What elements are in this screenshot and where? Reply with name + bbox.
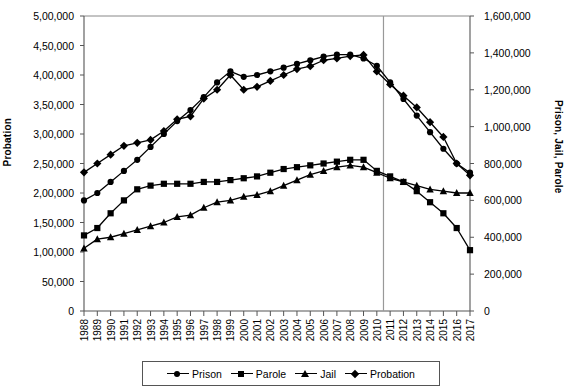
legend-item-jail[interactable]: Jail [295, 368, 336, 380]
x-tick-1999: 1999 [225, 319, 236, 341]
y-tick-right-7: 1,400,000 [484, 47, 531, 59]
y-tick-left-8: 4,00,000 [33, 69, 74, 81]
x-tick-2015: 2015 [438, 319, 449, 341]
y-tick-right-1: 200,000 [484, 268, 522, 280]
x-tick-2010: 2010 [372, 319, 383, 341]
x-tick-1991: 1991 [119, 319, 130, 341]
y-tick-right-5: 1,000,000 [484, 121, 531, 133]
y-tick-right-8: 1,600,000 [484, 10, 531, 22]
y-axis-left-ticks: 050,0001,00,0001,50,0002,00,0002,50,0003… [0, 0, 74, 391]
x-tick-2011: 2011 [385, 319, 396, 341]
y-tick-left-2: 1,00,000 [33, 246, 74, 258]
legend-label-jail: Jail [320, 368, 336, 380]
x-tick-1990: 1990 [106, 319, 117, 341]
x-tick-2004: 2004 [292, 319, 303, 341]
x-tick-2017: 2017 [465, 319, 476, 341]
x-tick-2006: 2006 [319, 319, 330, 341]
y-tick-left-3: 1,50,000 [33, 217, 74, 229]
y-tick-left-10: 5,00,000 [33, 10, 74, 22]
y-axis-right-label: Prison, Jail, Parole [548, 100, 564, 193]
legend-item-probation[interactable]: Probation [345, 368, 415, 380]
y-axis-left-label: Probation [2, 118, 18, 166]
x-tick-1994: 1994 [159, 319, 170, 341]
y-tick-left-0: 0 [68, 305, 74, 317]
x-tick-2000: 2000 [239, 319, 250, 341]
y-tick-left-6: 3,00,000 [33, 128, 74, 140]
legend-item-prison[interactable]: Prison [167, 368, 222, 380]
y-tick-left-7: 3,50,000 [33, 99, 74, 111]
legend-item-parole[interactable]: Parole [231, 368, 286, 380]
x-tick-1988: 1988 [79, 319, 90, 341]
y-tick-right-0: 0 [484, 305, 490, 317]
x-tick-2007: 2007 [332, 319, 343, 341]
x-tick-1995: 1995 [172, 319, 183, 341]
x-tick-1998: 1998 [212, 319, 223, 341]
x-tick-2009: 2009 [359, 319, 370, 341]
x-tick-2003: 2003 [279, 319, 290, 341]
y-tick-right-2: 400,000 [484, 231, 522, 243]
y-tick-left-5: 2,50,000 [33, 158, 74, 170]
parole-marker-icon [231, 369, 253, 378]
jail-marker-icon [295, 369, 317, 378]
x-tick-1993: 1993 [146, 319, 157, 341]
prison-marker-icon [167, 369, 189, 378]
x-tick-2005: 2005 [305, 319, 316, 341]
x-tick-2002: 2002 [265, 319, 276, 341]
legend-label-prison: Prison [192, 368, 222, 380]
y-tick-left-1: 50,000 [42, 276, 74, 288]
x-tick-1992: 1992 [132, 319, 143, 341]
y-tick-left-4: 2,00,000 [33, 187, 74, 199]
legend-label-parole: Parole [256, 368, 286, 380]
chart-legend: Prison Parole Jail Probation [142, 361, 440, 386]
x-tick-1996: 1996 [185, 319, 196, 341]
y-axis-right-ticks: 0200,000400,000600,000800,0001,000,0001,… [484, 0, 564, 391]
y-tick-right-4: 800,000 [484, 158, 522, 170]
x-tick-2013: 2013 [412, 319, 423, 341]
x-tick-1989: 1989 [92, 319, 103, 341]
y-tick-left-9: 4,50,000 [33, 40, 74, 52]
x-tick-2012: 2012 [398, 319, 409, 341]
legend-label-probation: Probation [370, 368, 415, 380]
x-tick-2016: 2016 [452, 319, 463, 341]
y-tick-right-3: 600,000 [484, 194, 522, 206]
x-tick-1997: 1997 [199, 319, 210, 341]
x-tick-2014: 2014 [425, 319, 436, 341]
x-tick-2001: 2001 [252, 319, 263, 341]
probation-marker-icon [345, 369, 367, 378]
y-tick-right-6: 1,200,000 [484, 84, 531, 96]
x-tick-2008: 2008 [345, 319, 356, 341]
